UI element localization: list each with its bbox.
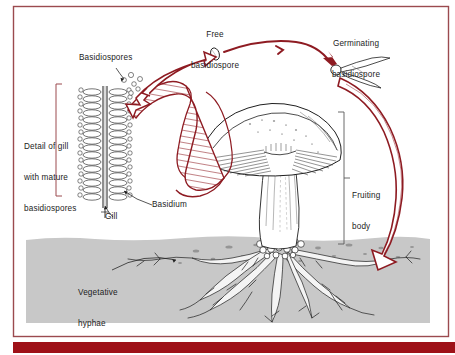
label-germinating-basidiospore-line1: Germinating	[315, 39, 397, 49]
gill-detail-drawing	[78, 72, 143, 218]
label-detail-of-gill-line1: Detail of gill	[24, 142, 84, 152]
label-vegetative-hyphae-line1: Vegetative	[78, 288, 144, 298]
label-free-basidiospore: Free basidiospore	[178, 10, 252, 92]
label-detail-of-gill: Detail of gill with mature basidiospores	[24, 122, 84, 234]
label-vegetative-hyphae: Vegetative hyphae	[78, 268, 144, 350]
label-detail-of-gill-line2: with mature	[24, 173, 84, 183]
label-gill: Gill	[105, 212, 117, 222]
label-fruiting-body-line1: Fruiting	[352, 191, 406, 201]
label-germinating-basidiospore-line2: basidiospore	[315, 70, 397, 80]
bracket-fruiting-body	[338, 112, 350, 244]
label-vegetative-hyphae-line2: hyphae	[78, 319, 144, 329]
label-free-basidiospore-line1: Free	[178, 30, 252, 40]
label-fruiting-body-line2: body	[352, 222, 406, 232]
figure-root: Free basidiospore Germinating basidiospo…	[0, 0, 455, 355]
label-basidiospores: Basidiospores	[79, 53, 132, 63]
label-basidium: Basidium	[152, 200, 187, 210]
label-fruiting-body: Fruiting body	[352, 171, 406, 253]
label-detail-of-gill-line3: basidiospores	[24, 204, 84, 214]
mushroom-drawing	[204, 103, 341, 249]
label-free-basidiospore-line2: basidiospore	[178, 61, 252, 71]
label-germinating-basidiospore: Germinating basidiospore	[315, 19, 397, 101]
